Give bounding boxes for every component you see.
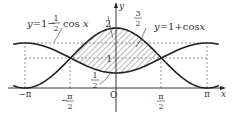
half-num: 1 — [92, 71, 97, 80]
y-tick-1: 1 — [106, 54, 112, 64]
y-axis-arrow-icon — [114, 2, 118, 8]
x-tick-neg-half-pi-num: π — [67, 92, 72, 101]
x-tick-half-pi-den: 2 — [158, 102, 163, 111]
curve-a-suffix: cos x — [63, 18, 89, 29]
y-axis-label: y — [118, 1, 125, 11]
x-tick-neg-pi: −π — [19, 89, 32, 99]
three-halves-den: 2 — [135, 19, 140, 28]
leader-half — [100, 74, 110, 84]
x-tick-neg-half-pi-sign: − — [61, 96, 68, 105]
curve-a-label: y=1− — [26, 18, 56, 29]
x-tick-pi: π — [204, 89, 210, 99]
curve-a-frac-num: 1 — [53, 14, 58, 23]
x-axis-label: x — [221, 89, 226, 99]
curve-b-label: y=1+cosx — [153, 21, 206, 32]
y-tick-2: 2 — [105, 19, 111, 29]
three-halves-num: 3 — [135, 9, 140, 18]
x-tick-half-pi-num: π — [158, 92, 163, 101]
x-tick-neg-half-pi-den: 2 — [67, 102, 72, 111]
origin-label: O — [110, 90, 117, 100]
curve-a-frac-den: 2 — [53, 24, 58, 33]
half-den: 2 — [92, 81, 97, 90]
graph: y=1− 1 2 cos x y=1+cosx 3 2 2 1 1 2 O y … — [0, 0, 234, 114]
